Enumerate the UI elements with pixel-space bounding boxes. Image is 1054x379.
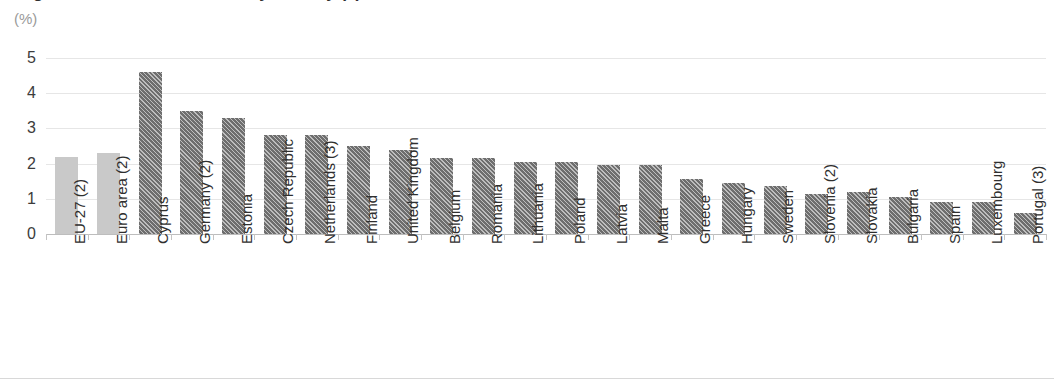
- y-axis-tick-label: 3: [27, 120, 36, 136]
- page-title: Figure: Annual inflation rate by country…: [18, 0, 1038, 4]
- x-axis-label: EU-27 (2): [72, 179, 87, 244]
- x-axis-label: Finland: [364, 195, 379, 244]
- x-axis-label: Luxembourg: [989, 161, 1004, 244]
- x-axis-tick: [296, 234, 297, 240]
- x-axis-label: Estonia: [239, 194, 254, 244]
- x-axis-label: Portugal (3): [1030, 166, 1045, 244]
- y-axis-unit-label: (%): [14, 10, 37, 28]
- x-axis-tick: [1046, 234, 1047, 240]
- x-axis-label: Greece: [697, 195, 712, 244]
- x-axis-label: United Kingdom: [405, 137, 420, 244]
- x-axis-label: Cyprus: [155, 196, 170, 244]
- x-axis-tick: [671, 234, 672, 240]
- y-axis-tick-label: 5: [27, 50, 36, 66]
- x-axis-label: Belgium: [447, 190, 462, 244]
- chart-title-clipped: Figure: Annual inflation rate by country…: [18, 0, 1038, 4]
- y-axis-tick-label: 4: [27, 85, 36, 101]
- x-axis-tick: [546, 234, 547, 240]
- x-axis-label: Germany (2): [197, 160, 212, 244]
- x-axis-label: Bulgaria: [905, 189, 920, 244]
- x-axis-label: Spain: [947, 206, 962, 244]
- x-axis-tick: [171, 234, 172, 240]
- x-axis-label: Czech Republic: [280, 139, 295, 244]
- x-axis-tick: [796, 234, 797, 240]
- x-axis-label: Netherlands (3): [322, 141, 337, 244]
- x-axis-label: Slovenia (2): [822, 164, 837, 244]
- x-axis-tick: [46, 234, 47, 240]
- x-axis-tick: [921, 234, 922, 240]
- x-axis-label: Sweden: [780, 190, 795, 244]
- x-axis-tick: [421, 234, 422, 240]
- y-axis-tick-label: 1: [27, 191, 36, 207]
- x-axis-label: Malta: [655, 207, 670, 244]
- x-axis-label: Latvia: [614, 204, 629, 244]
- x-axis-label: Lithuania: [530, 183, 545, 244]
- y-axis-tick-label: 0: [27, 226, 36, 242]
- y-axis-tick-label: 2: [27, 156, 36, 172]
- x-axis: EU-27 (2)Euro area (2)CyprusGermany (2)E…: [46, 234, 1046, 374]
- x-axis-label: Euro area (2): [114, 156, 129, 244]
- x-axis-label: Poland: [572, 197, 587, 244]
- x-axis-label: Romania: [489, 184, 504, 244]
- x-axis-label: Hungary: [739, 187, 754, 244]
- chart-figure: Figure: Annual inflation rate by country…: [0, 0, 1054, 379]
- x-axis-label: Slovakia: [864, 187, 879, 244]
